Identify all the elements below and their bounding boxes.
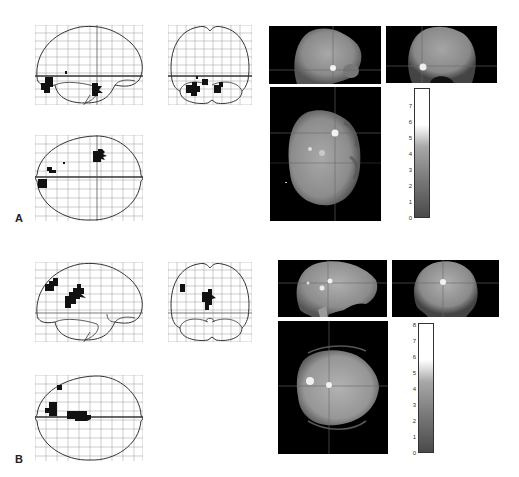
colorbar-b-tick-7: 7: [408, 338, 416, 344]
colorbar-b-tick-0: 0: [408, 450, 416, 456]
glass-brain-transverse-b: [35, 375, 143, 461]
panel-label-b: B: [15, 453, 23, 465]
colorbar-a-tick-2: 2: [404, 183, 412, 189]
colorbar-a-tick-0: 0: [404, 215, 412, 221]
colorbar-b-tick-1: 1: [408, 434, 416, 440]
slice-sagittal-b: [278, 260, 387, 317]
glass-brain-sagittal-a: [35, 25, 143, 105]
colorbar-a-tick-5: 5: [404, 135, 412, 141]
panel-label-a: A: [15, 212, 23, 224]
glass-brain-transverse-a: [35, 135, 143, 221]
glass-brain-coronal-a: [168, 25, 252, 105]
colorbar-a-tick-7: 7: [404, 103, 412, 109]
colorbar-a: [414, 88, 430, 218]
colorbar-b-tick-5: 5: [408, 370, 416, 376]
slice-axial-b: [278, 321, 388, 454]
colorbar-b-tick-6: 6: [408, 354, 416, 360]
colorbar-b-tick-8: 8: [408, 322, 416, 328]
glass-brain-coronal-b: [168, 262, 252, 342]
slice-coronal-a: [386, 26, 497, 83]
colorbar-a-tick-3: 3: [404, 167, 412, 173]
glass-brain-sagittal-b: [35, 262, 143, 342]
colorbar-b-tick-2: 2: [408, 418, 416, 424]
slice-sagittal-a: [269, 26, 381, 84]
colorbar-a-tick-6: 6: [404, 119, 412, 125]
slice-coronal-b: [392, 260, 499, 317]
colorbar-a-tick-4: 4: [404, 151, 412, 157]
colorbar-b-tick-3: 3: [408, 402, 416, 408]
colorbar-b-tick-4: 4: [408, 386, 416, 392]
colorbar-b: [418, 323, 434, 453]
colorbar-a-tick-1: 1: [404, 199, 412, 205]
slice-axial-a: [270, 87, 381, 221]
